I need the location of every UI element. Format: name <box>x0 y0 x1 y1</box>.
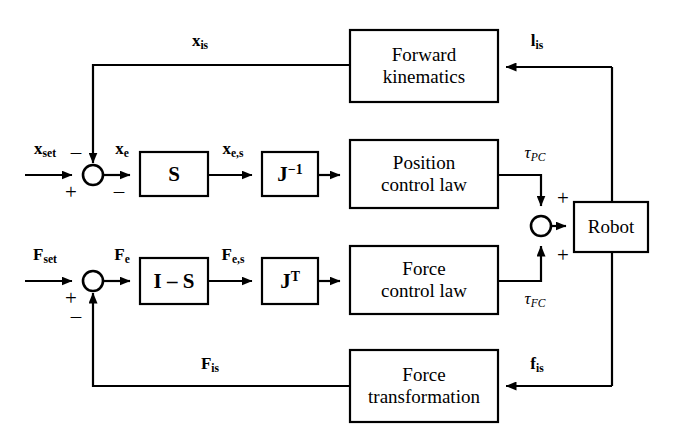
summing-junction-position-error <box>83 165 103 185</box>
sign-position-sum-minus-output: – <box>114 181 125 202</box>
signal-label-F-is: Fis <box>201 355 219 372</box>
block-label-complement-selection-matrix: I – S <box>154 269 195 294</box>
sign-torque-sum-plus-bottom: + <box>557 245 569 266</box>
signal-label-f-is: fis <box>530 355 543 372</box>
summing-junction-force-error <box>83 271 103 291</box>
signal-label-x-e: xe <box>115 140 129 157</box>
block-label-robot: Robot <box>588 216 634 238</box>
sign-force-sum-minus-feedback: – <box>71 306 82 327</box>
signal-label-F-set: Fset <box>33 246 57 263</box>
signal-label-tau-pc: τPC <box>525 144 546 161</box>
wire-position-law-to-torque-sum <box>498 175 541 206</box>
block-label-jacobian-inverse: J−1 <box>277 162 302 187</box>
signal-label-tau-fc: τFC <box>525 290 546 307</box>
block-label-jacobian-transpose: JT <box>280 269 300 294</box>
block-label-forward-kinematics: Forwardkinematics <box>383 44 465 89</box>
signal-label-F-e: Fe <box>114 246 130 263</box>
wire-force-transformation-to-force-sum <box>93 293 350 386</box>
wire-force-law-to-torque-sum <box>498 246 541 281</box>
sign-position-sum-minus-feedback: – <box>71 142 82 163</box>
block-label-position-control-law: Positioncontrol law <box>381 152 467 197</box>
block-diagram: Forwardkinematics Positioncontrol law Fo… <box>0 0 679 440</box>
summing-junction-torque <box>531 216 551 236</box>
block-label-force-control-law: Forcecontrol law <box>381 258 467 303</box>
block-label-force-transformation: Forcetransformation <box>368 364 480 409</box>
diagram-canvas <box>0 0 679 440</box>
sign-position-sum-plus-input: + <box>65 182 77 203</box>
signal-label-l-is: lis <box>531 32 543 49</box>
signal-label-F-e-s: Fe,s <box>222 246 245 263</box>
signal-label-x-set: xset <box>34 140 56 157</box>
sign-torque-sum-plus-top: + <box>557 188 569 209</box>
block-label-selection-matrix: S <box>168 162 180 187</box>
signal-label-x-is: xis <box>192 32 208 49</box>
signal-label-x-e-s: xe,s <box>222 140 243 157</box>
